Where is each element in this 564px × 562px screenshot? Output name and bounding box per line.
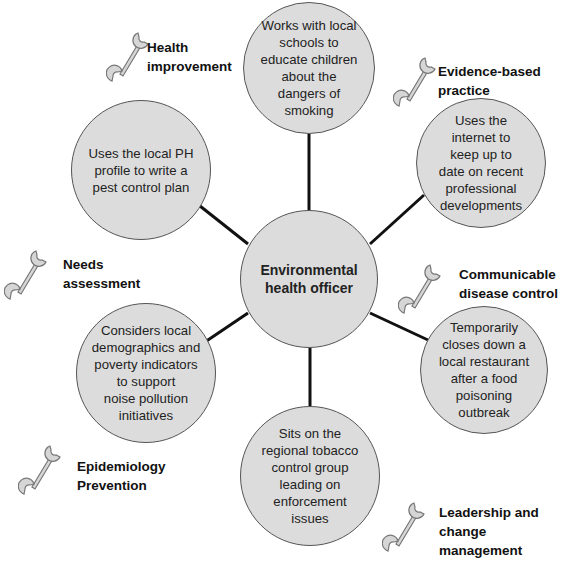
competency-needs-assessment: Needs assessment [63,255,140,293]
node-upper-left-text: Uses the local PH profile to write a pes… [89,145,194,196]
node-lower-left-text: Considers local demographics and poverty… [92,322,201,424]
node-center: Environmental health officer [240,210,378,348]
wrench-icon [382,500,426,556]
node-upper-left: Uses the local PH profile to write a pes… [71,100,211,240]
node-lower-right-text: Temporarily closes down a local restaura… [439,319,529,421]
competency-leadership-change-management: Leadership and change management [439,503,539,560]
node-upper-right: Uses the internet to keep up to date on … [416,98,546,228]
spider-diagram: Works with local schools to educate chil… [0,0,564,562]
competency-communicable-disease-control: Communicable disease control [459,265,558,303]
competency-health-improvement: Health improvement [147,38,232,76]
center-label: Environmental health officer [260,261,357,297]
wrench-icon [4,248,48,304]
node-lower-left: Considers local demographics and poverty… [76,303,216,443]
wrench-icon [18,443,62,499]
competency-evidence-based-practice: Evidence-based practice [438,62,541,100]
wrench-icon [398,262,442,318]
node-top-text: Works with local schools to educate chil… [261,17,358,119]
wrench-icon [106,30,150,86]
node-lower-right: Temporarily closes down a local restaura… [420,306,548,434]
competency-epidemiology-prevention: Epidemiology Prevention [77,457,166,495]
wrench-icon [393,55,437,111]
node-top: Works with local schools to educate chil… [243,2,375,134]
node-bottom: Sits on the regional tobacco control gro… [240,406,380,546]
node-upper-right-text: Uses the internet to keep up to date on … [439,112,523,214]
node-bottom-text: Sits on the regional tobacco control gro… [262,425,359,527]
